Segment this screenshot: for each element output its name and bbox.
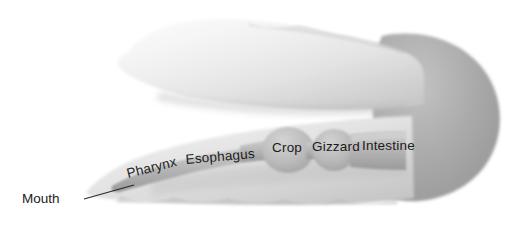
diagram-canvas: Mouth Pharynx Esophagus Crop Gizzard Int… xyxy=(0,0,528,226)
upper-body-fold xyxy=(118,19,424,115)
earthworm-digestive-diagram: Mouth Pharynx Esophagus Crop Gizzard Int… xyxy=(0,0,528,226)
organ-label-gizzard: Gizzard xyxy=(312,139,360,154)
callout-label-mouth: Mouth xyxy=(22,191,60,206)
organ-label-crop: Crop xyxy=(272,140,302,155)
organ-label-intestine: Intestine xyxy=(362,138,415,153)
